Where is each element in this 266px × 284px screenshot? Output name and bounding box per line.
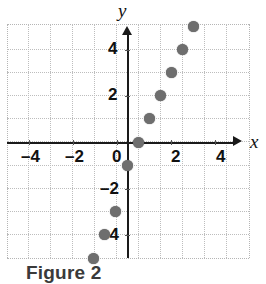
figure-caption: Figure 2	[26, 262, 102, 284]
data-point	[177, 44, 188, 55]
plot-border-top	[7, 24, 249, 25]
data-point	[188, 21, 199, 32]
y-axis-tick	[125, 189, 130, 190]
x-axis-tick	[215, 140, 216, 145]
x-axis-tick	[73, 140, 74, 145]
x-axis	[7, 142, 235, 144]
plot-border-bottom	[7, 258, 249, 259]
data-point	[155, 90, 166, 101]
y-axis-tick	[125, 235, 130, 236]
y-axis-label: y	[118, 0, 126, 22]
data-point	[144, 113, 155, 124]
x-axis-tick	[117, 140, 118, 145]
x-axis-label: x	[250, 131, 258, 153]
x-axis-arrow-icon	[233, 136, 242, 146]
x-tick-label: 0	[112, 148, 121, 165]
x-axis-tick	[171, 140, 172, 145]
x-tick-label: 2	[171, 148, 180, 165]
x-axis-tick	[29, 140, 30, 145]
y-axis	[127, 35, 129, 258]
x-tick-label: –2	[65, 148, 84, 165]
data-point	[133, 137, 144, 148]
y-tick-label: 2	[108, 86, 117, 103]
y-tick-label: –2	[100, 180, 119, 197]
data-point	[166, 67, 177, 78]
y-tick-label: 4	[108, 40, 117, 57]
y-axis-tick	[125, 96, 130, 97]
x-tick-label: –4	[21, 148, 40, 165]
x-tick-label: 4	[216, 148, 225, 165]
y-axis-arrow-icon	[122, 26, 132, 35]
data-point	[122, 160, 133, 171]
y-axis-tick	[125, 50, 130, 51]
